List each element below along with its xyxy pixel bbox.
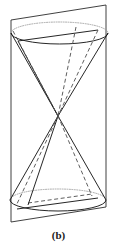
lower-section-chord-dashed: [28, 194, 92, 203]
upper-rim-hidden-arc: [11, 22, 108, 33]
lower-nappe-group: [10, 116, 106, 211]
upper-section-chord: [18, 30, 98, 41]
upper-hidden-generator-right-dashed: [58, 27, 76, 116]
conic-section-figure: (b): [0, 0, 117, 250]
upper-generator-right: [58, 33, 108, 116]
lower-section-chord: [17, 198, 98, 209]
upper-nappe-group: [11, 22, 108, 116]
lower-generator-right: [58, 116, 106, 200]
upper-rim-visible-arc: [11, 33, 108, 44]
figure-drawing: [0, 0, 117, 250]
plane-top-edge: [11, 5, 106, 20]
lower-section-edge-right-dashed: [58, 116, 92, 196]
plane-bottom-edge: [11, 207, 106, 222]
figure-caption: (b): [0, 229, 117, 242]
